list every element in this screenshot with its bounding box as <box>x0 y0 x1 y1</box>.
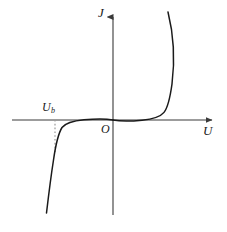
breakdown-voltage-subscript: b <box>51 106 55 115</box>
x-axis-label: U <box>203 124 212 137</box>
ju-curve-upper-branch <box>113 12 174 121</box>
breakdown-voltage-label: Ub <box>42 101 55 115</box>
plot-canvas <box>0 0 227 232</box>
y-axis-label: J <box>98 6 104 19</box>
breakdown-voltage-symbol: U <box>42 100 51 114</box>
ju-characteristic-figure: J U O Ub <box>0 0 227 232</box>
origin-label: O <box>101 123 110 135</box>
